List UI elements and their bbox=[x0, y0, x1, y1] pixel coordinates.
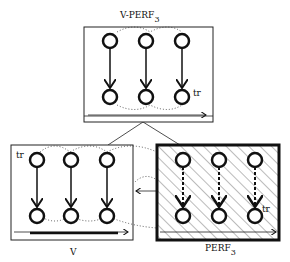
bottom-right-box bbox=[157, 145, 279, 240]
top-box bbox=[84, 27, 213, 122]
diagram-canvas bbox=[0, 0, 290, 262]
connector-lines bbox=[108, 122, 180, 145]
right-title: PERF3 bbox=[205, 243, 236, 253]
between-arrows bbox=[135, 176, 157, 191]
top-title: V-PERF3 bbox=[120, 10, 159, 20]
right-node-label: tr bbox=[262, 204, 270, 214]
left-node-label: tr bbox=[16, 150, 24, 160]
left-title: V bbox=[70, 247, 77, 257]
bottom-left-box bbox=[11, 145, 157, 240]
top-node-label: tr bbox=[193, 88, 201, 98]
